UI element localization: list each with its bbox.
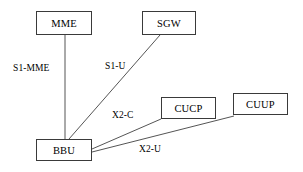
edge-label-x2-c: X2-C bbox=[111, 110, 135, 120]
node-mme[interactable]: MME bbox=[36, 11, 92, 35]
node-bbu-label: BBU bbox=[53, 145, 75, 156]
node-cuup-label: CUUP bbox=[246, 99, 275, 110]
node-mme-label: MME bbox=[51, 18, 77, 29]
network-topology-diagram: MME SGW CUCP CUUP BBU S1-MME S1-U X2-C X… bbox=[0, 0, 303, 172]
node-bbu[interactable]: BBU bbox=[36, 139, 92, 161]
node-sgw[interactable]: SGW bbox=[142, 11, 196, 35]
edge-label-s1-mme: S1-MME bbox=[12, 63, 51, 73]
node-sgw-label: SGW bbox=[157, 18, 181, 29]
edge-label-x2-u: X2-U bbox=[138, 144, 162, 154]
node-cucp[interactable]: CUCP bbox=[161, 97, 216, 119]
edge-label-s1-u: S1-U bbox=[104, 61, 126, 71]
edge-x2-u bbox=[92, 116, 234, 152]
node-cuup[interactable]: CUUP bbox=[233, 93, 288, 115]
node-cucp-label: CUCP bbox=[174, 103, 202, 114]
edge-s1-u bbox=[69, 35, 160, 139]
